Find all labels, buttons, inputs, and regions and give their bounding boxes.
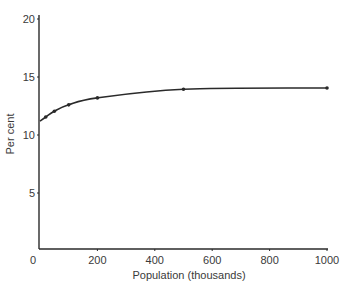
data-line xyxy=(40,88,327,121)
y-axis-label: Per cent xyxy=(4,114,16,155)
axes xyxy=(39,15,328,249)
data-point xyxy=(53,109,57,113)
y-axis-ticks: 5101520 xyxy=(23,13,39,199)
data-point xyxy=(67,103,71,107)
x-tick-label: 600 xyxy=(203,254,221,266)
x-tick-label: 0 xyxy=(30,254,36,266)
data-point xyxy=(182,87,186,91)
y-tick-label: 15 xyxy=(23,71,35,83)
x-axis-ticks: 02004006008001000 xyxy=(30,249,339,266)
x-tick-label: 200 xyxy=(88,254,106,266)
x-tick-label: 1000 xyxy=(315,254,339,266)
data-markers xyxy=(44,86,329,119)
line-chart: 5101520 02004006008001000 Population (th… xyxy=(0,0,346,288)
x-tick-label: 800 xyxy=(260,254,278,266)
y-tick-label: 10 xyxy=(23,129,35,141)
x-tick-label: 400 xyxy=(146,254,164,266)
data-point xyxy=(44,115,48,119)
x-axis-label: Population (thousands) xyxy=(132,269,245,281)
data-point xyxy=(96,96,100,100)
data-point xyxy=(325,86,329,90)
y-tick-label: 5 xyxy=(29,187,35,199)
y-tick-label: 20 xyxy=(23,13,35,25)
